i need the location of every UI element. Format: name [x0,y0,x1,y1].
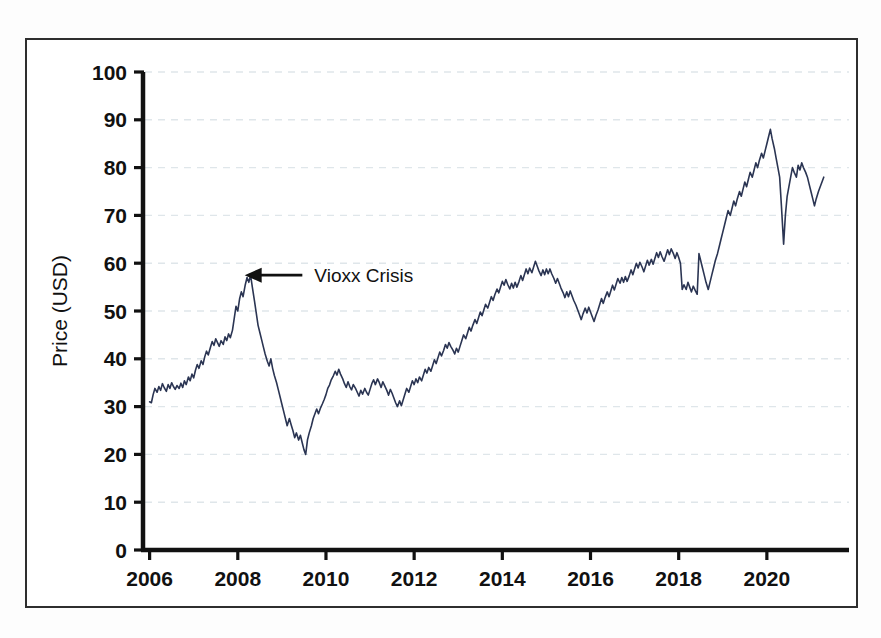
x-tick-label-2014: 2014 [479,567,526,590]
annotation-arrow-head-0 [245,268,262,283]
y-tick-label-10: 10 [104,491,127,514]
x-tick-label-2010: 2010 [303,567,350,590]
gridlines-group [145,72,849,550]
y-axis-title: Price (USD) [48,255,71,367]
x-tick-label-2020: 2020 [744,567,791,590]
y-tick-label-70: 70 [104,204,127,227]
y-tick-label-40: 40 [104,347,127,370]
y-tick-label-80: 80 [104,156,127,179]
x-tick-label-2016: 2016 [567,567,614,590]
x-tick-label-2008: 2008 [214,567,261,590]
x-tick-label-2012: 2012 [391,567,438,590]
y-tick-label-90: 90 [104,108,127,131]
y-tick-label-0: 0 [115,539,127,562]
y-tick-label-50: 50 [104,300,127,323]
annotation-group: Vioxx Crisis [245,265,414,286]
series-group [150,129,824,454]
y-tick-label-30: 30 [104,395,127,418]
x-axis-group: 20062008201020122014201620182020 [126,550,849,590]
price-chart: 0102030405060708090100 20062008201020122… [27,40,856,606]
figure-root: 0102030405060708090100 20062008201020122… [0,0,881,638]
series-line-0 [150,129,824,454]
axis-titles-group: Price (USD) [48,255,71,367]
figure-frame: 0102030405060708090100 20062008201020122… [25,38,858,608]
y-tick-label-100: 100 [92,61,127,84]
y-tick-label-60: 60 [104,252,127,275]
x-tick-label-2006: 2006 [126,567,173,590]
x-tick-label-2018: 2018 [655,567,702,590]
y-tick-label-20: 20 [104,443,127,466]
annotation-label-0: Vioxx Crisis [314,265,413,286]
y-axis-group: 0102030405060708090100 [92,61,144,562]
